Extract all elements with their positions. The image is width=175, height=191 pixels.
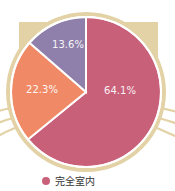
pie-chart: 64.1%22.3%13.6% xyxy=(0,0,175,191)
legend-label: 完全室内 xyxy=(55,173,95,188)
slice-value-label: 22.3% xyxy=(26,84,58,95)
slice-value-label: 64.1% xyxy=(104,85,136,96)
slice-value-label: 13.6% xyxy=(52,39,84,50)
legend-dot xyxy=(42,177,50,185)
legend: 完全室内 xyxy=(42,173,95,188)
